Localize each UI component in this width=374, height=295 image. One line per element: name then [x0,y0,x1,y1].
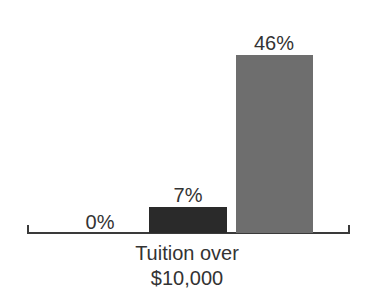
category-label-line1: Tuition over [107,241,267,266]
bar-value-label-2: 46% [234,32,314,55]
bar-series-2 [149,207,227,233]
bar-value-label-1: 7% [148,184,228,207]
category-label-line2: $10,000 [107,266,267,291]
axis-right-tick [348,225,350,234]
axis-left-tick [27,225,29,234]
bar-series-3 [236,55,313,233]
bar-value-label-0: 0% [60,211,140,234]
